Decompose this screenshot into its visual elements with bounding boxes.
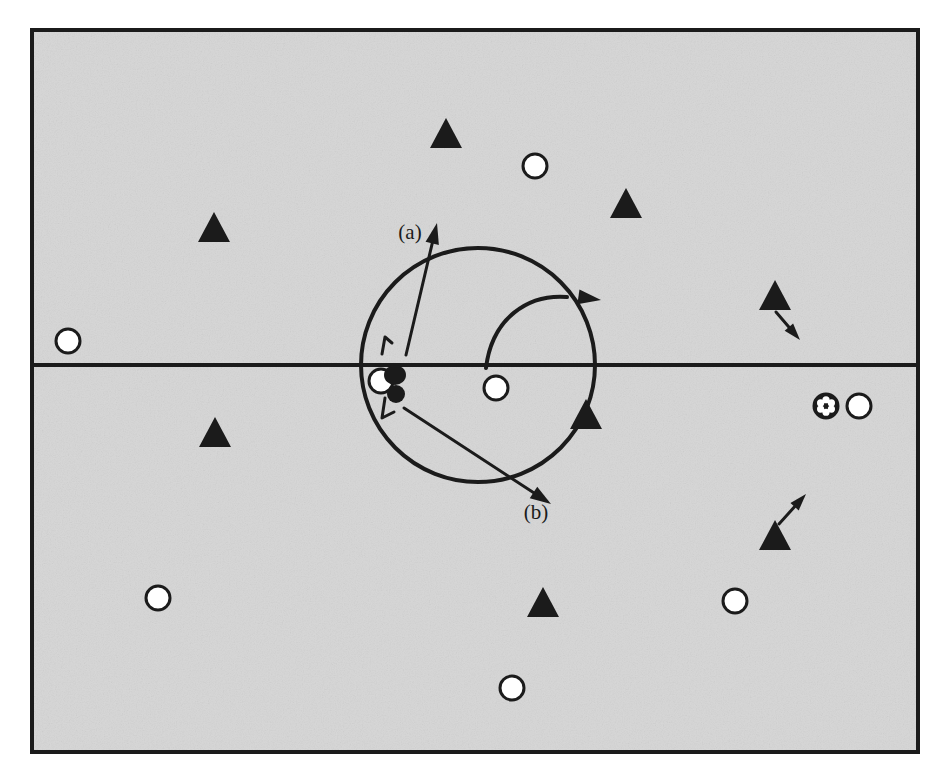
open-circle-top-center [523,154,547,178]
open-circle-right-of-spoke [847,394,871,418]
spoked-circle-right [814,394,838,418]
spoked-circle-right-petal [817,406,824,413]
open-circle-center-orbit [484,376,508,400]
core-blob-upper [384,365,406,385]
open-circle-bottom-right [723,589,747,613]
figure-canvas: (a)(b) [0,0,949,783]
spoked-circle-right-petal [828,399,835,406]
open-circle-top-left [56,329,80,353]
open-circle-bottom-left [146,586,170,610]
spoked-circle-marker-layer [814,394,838,418]
label-b: (b) [524,500,549,524]
label-a: (a) [398,220,421,244]
figure-root: (a)(b) [0,0,949,783]
open-circle-bottom-center [500,676,524,700]
core-blob-lower [387,385,405,403]
panel-background [32,30,918,752]
